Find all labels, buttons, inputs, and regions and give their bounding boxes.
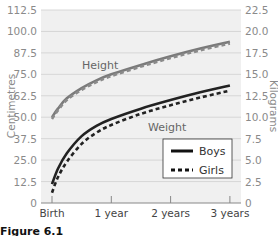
figure-caption: Figure 6.1 [0,225,63,236]
y-left-tick-label: 62.5 [14,90,37,102]
legend-boys-label: Boys [199,145,226,158]
y-axis-right-label: Kilograms [268,80,278,132]
y-left-tick-label: 25.0 [14,154,37,166]
y-left-tick-label: 12.5 [14,176,37,188]
x-tick-label: 2 years [151,207,190,219]
y-right-tick-label: 17.5 [245,47,268,59]
height-annotation: Height [82,59,119,72]
y-right-tick-label: 7.5 [245,133,262,145]
y-left-tick-label: 37.5 [14,133,37,145]
y-left-tick-label: 100.0 [7,25,37,37]
y-right-tick-label: 2.5 [245,176,262,188]
weight-annotation: Weight [148,121,187,134]
y-left-tick-label: 75.0 [14,68,37,80]
y-left-tick-label: 50.0 [14,111,37,123]
y-right-tick-label: 15.0 [245,68,268,80]
x-tick-label: 3 years [210,207,249,219]
y-right-tick-label: 20.0 [245,25,268,37]
y-left-tick-label: 87.5 [14,47,37,59]
x-tick-label: Birth [39,207,64,219]
y-right-tick-label: 22.5 [245,4,268,16]
y-right-tick-label: 5.0 [245,154,262,166]
y-right-tick-label: 10.0 [245,111,268,123]
y-axis-right-ticks: 02.55.07.510.012.515.017.520.022.5 [245,4,268,209]
growth-chart: 012.525.037.550.062.575.087.5100.0112.5 … [0,0,278,236]
y-right-tick-label: 12.5 [245,90,268,102]
legend-girls-label: Girls [199,164,224,177]
y-left-tick-label: 0 [30,197,37,209]
legend: Boys Girls [163,139,232,178]
y-left-tick-label: 112.5 [7,4,37,16]
y-axis-left-label: Centimetres [5,74,17,138]
x-tick-label: 1 year [95,207,129,219]
